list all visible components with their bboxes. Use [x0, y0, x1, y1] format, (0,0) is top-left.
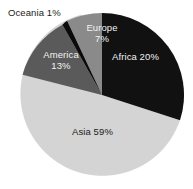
pie-slices [20, 13, 184, 176]
pie-chart: Africa 20% Europe 7% America 13% Asia 59… [0, 0, 193, 189]
pie-chart-canvas [0, 0, 193, 189]
